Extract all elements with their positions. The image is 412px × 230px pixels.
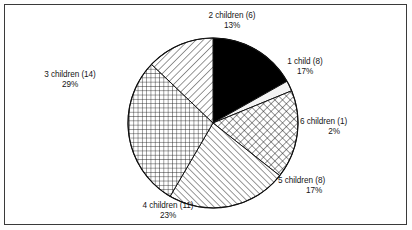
slice-label-five-children-percent: 17% <box>278 186 350 196</box>
slice-label-two-children-text: 2 children (6) <box>208 11 255 20</box>
slice-label-one-child-text: 1 child (8) <box>287 57 322 66</box>
slice-label-six-children: 6 children (1) 2% <box>300 117 398 138</box>
slice-label-three-children-text: 3 children (14) <box>44 70 96 79</box>
slice-label-three-children-percent: 29% <box>18 80 122 90</box>
slice-label-one-child: 1 child (8) 17% <box>262 57 348 78</box>
slice-label-one-child-percent: 17% <box>262 67 348 77</box>
slice-label-two-children: 2 children (6) 13% <box>178 11 286 32</box>
slice-label-five-children: 5 children (8) 17% <box>278 176 374 197</box>
slice-label-five-children-text: 5 children (8) <box>278 176 325 185</box>
slice-label-three-children: 3 children (14) 29% <box>18 70 122 91</box>
slice-label-four-children: 4 children (11) 23% <box>118 201 218 222</box>
slice-label-four-children-text: 4 children (11) <box>143 201 194 210</box>
slice-label-six-children-percent: 2% <box>300 127 368 137</box>
slice-label-six-children-text: 6 children (1) <box>300 117 347 126</box>
slice-label-two-children-percent: 13% <box>178 21 286 31</box>
pie-chart-figure: 2 children (6) 13% 1 child (8) 17% 6 chi… <box>0 0 412 230</box>
slice-label-four-children-percent: 23% <box>118 211 218 221</box>
